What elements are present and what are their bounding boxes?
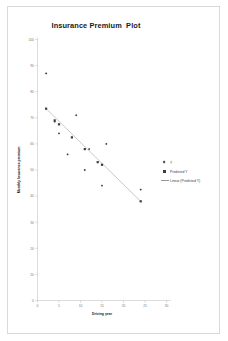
svg-text:100: 100 (28, 38, 34, 42)
svg-text:0: 0 (37, 304, 39, 308)
svg-text:90: 90 (30, 64, 34, 68)
x-axis-ticks (38, 301, 167, 303)
svg-text:50: 50 (30, 168, 34, 172)
svg-text:20: 20 (30, 247, 34, 251)
svg-text:30: 30 (165, 304, 169, 308)
y-axis-tick-labels: 0102030405060708090100 (28, 38, 34, 303)
data-series-y (45, 72, 142, 190)
legend-item-y: Y (160, 158, 222, 167)
line-marker-icon (160, 179, 169, 183)
x-axis-tick-labels: 051015202530 (37, 304, 169, 308)
svg-text:25: 25 (143, 304, 147, 308)
legend-label: Y (170, 161, 172, 165)
svg-text:0: 0 (32, 299, 34, 303)
legend-item-linear-predicted-y: Linear (Predicted Y) (160, 176, 222, 185)
svg-text:60: 60 (30, 142, 34, 146)
x-axis-title: Driving year (92, 312, 113, 316)
svg-text:5: 5 (58, 304, 60, 308)
legend-label: Linear (Predicted Y) (170, 179, 200, 183)
plot-axes (38, 38, 171, 301)
svg-text:40: 40 (30, 194, 34, 198)
svg-text:10: 10 (30, 273, 34, 277)
legend-item-predicted-y: Predicted Y (160, 167, 222, 176)
svg-text:70: 70 (30, 116, 34, 120)
y-axis-ticks (35, 40, 37, 301)
svg-text:10: 10 (79, 304, 83, 308)
svg-text:15: 15 (100, 304, 104, 308)
chart-legend: Y Predicted Y Linear (Predicted Y) (160, 158, 222, 185)
y-axis-title: Monthly Insurance premium (17, 147, 21, 194)
diamond-marker-icon (160, 161, 169, 165)
legend-label: Predicted Y (170, 170, 187, 174)
svg-text:80: 80 (30, 90, 34, 94)
linear-trendline (46, 109, 141, 202)
square-marker-icon (160, 170, 169, 174)
svg-text:20: 20 (122, 304, 126, 308)
svg-text:30: 30 (30, 221, 34, 225)
